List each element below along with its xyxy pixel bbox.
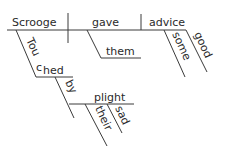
word-subject: Scrooge: [12, 16, 57, 29]
word-modifier-good: good: [191, 30, 214, 60]
word-direct-object: advice: [149, 16, 185, 29]
word-participle-part1: Tou: [23, 35, 43, 58]
sentence-diagram: Scrooge gave advice them some good Tou c…: [0, 0, 226, 152]
word-verb: gave: [92, 16, 119, 29]
word-modifier-some: some: [169, 30, 194, 63]
word-preposition: by: [62, 78, 80, 96]
word-participle-part3: hed: [43, 64, 64, 77]
indirect-object-diagonal: [87, 30, 101, 58]
word-indirect-object: them: [106, 45, 135, 58]
word-participle-part2: c: [36, 61, 42, 74]
word-prep-object: plight: [94, 91, 126, 104]
word-modifier-their: their: [92, 104, 115, 133]
diagram-canvas: Scrooge gave advice them some good Tou c…: [0, 0, 226, 152]
word-modifier-sad: sad: [112, 104, 132, 127]
